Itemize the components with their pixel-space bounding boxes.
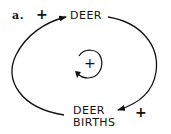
loop-polarity-sign: + (84, 57, 96, 69)
node-deer-births-line2: BIRTHS (73, 117, 116, 129)
node-deer: DEER (70, 10, 102, 22)
polarity-sign-deer-to-births: + (135, 106, 147, 118)
link-deer-to-births (108, 17, 157, 110)
causal-loop-diagram: a. + DEER + DEER BIRTHS + (0, 0, 171, 134)
link-births-to-deer (12, 17, 66, 115)
panel-label: a. (12, 10, 24, 22)
loop-arrowhead-icon (75, 71, 81, 78)
polarity-sign-births-to-deer: + (36, 8, 48, 20)
